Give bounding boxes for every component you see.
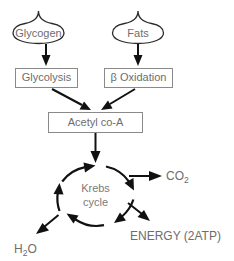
arrow-krebs-to-co2 — [129, 171, 162, 181]
arrow-glycogen-to-glycolysis — [42, 44, 51, 66]
output-co2[interactable]: CO2 — [166, 169, 189, 185]
h2o-label-main-a: H — [14, 242, 23, 256]
h2o-label-main-b: O — [27, 242, 36, 256]
h2o-label: H2O — [14, 242, 37, 258]
krebs-cycle-label-line1: Krebs — [81, 182, 110, 194]
co2-label: CO2 — [166, 169, 189, 185]
node-acetyl-coa[interactable]: Acetyl co-A — [49, 113, 143, 133]
co2-label-main: CO — [166, 169, 184, 183]
node-glycogen[interactable]: Glycogen — [13, 11, 64, 44]
krebs-arc-segment-4 — [67, 214, 105, 226]
arrow-krebs-to-h2o — [36, 215, 59, 234]
energy-label: ENERGY (2ATP) — [130, 229, 221, 243]
diagram-canvas: Glycogen Fats Glycolysis β Oxidation — [0, 0, 234, 261]
arrow-glycolysis-to-acetyl-coa — [52, 89, 91, 110]
node-fats[interactable]: Fats — [113, 11, 164, 44]
glycolysis-label: Glycolysis — [22, 71, 72, 83]
output-energy[interactable]: ENERGY (2ATP) — [130, 229, 221, 243]
arrow-krebs-to-energy — [128, 203, 150, 221]
metabolism-flow-diagram: Glycogen Fats Glycolysis β Oxidation — [0, 0, 234, 261]
glycogen-label: Glycogen — [15, 27, 61, 39]
krebs-arc-segment-2 — [106, 167, 134, 191]
krebs-arc-segment-3 — [114, 200, 133, 224]
output-h2o[interactable]: H2O — [14, 242, 37, 258]
arrow-beta-oxidation-to-acetyl-coa — [101, 89, 135, 110]
acetyl-coa-label: Acetyl co-A — [68, 116, 124, 128]
beta-oxidation-label: β Oxidation — [111, 71, 167, 83]
arrow-acetyl-coa-to-krebs-cycle — [91, 133, 101, 163]
fats-label: Fats — [127, 27, 149, 39]
krebs-arc-segment-5 — [54, 183, 64, 211]
node-beta-oxidation[interactable]: β Oxidation — [105, 69, 173, 88]
krebs-arc-segment-1 — [62, 163, 95, 182]
node-glycolysis[interactable]: Glycolysis — [16, 69, 78, 88]
node-krebs-cycle[interactable]: Krebs cycle — [54, 163, 135, 226]
co2-label-subscript: 2 — [184, 175, 189, 185]
arrow-fats-to-beta-oxidation — [134, 44, 143, 66]
krebs-cycle-label-line2: cycle — [83, 196, 108, 208]
